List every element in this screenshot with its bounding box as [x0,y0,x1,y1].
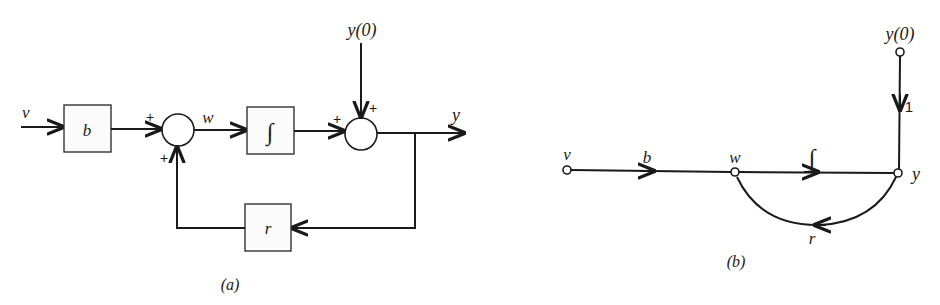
node-y0 [896,48,904,56]
gain-b-label: b [83,121,92,140]
summer2-junction [345,118,377,150]
summer2-plus-top: + [369,100,377,116]
summer1-junction [162,114,194,146]
summer1-plus-bottom: + [160,150,168,166]
output-y-label: y [450,105,460,125]
input-v-label: v [22,103,30,122]
node-v-label: v [563,145,571,164]
w-signal-label: w [202,108,214,127]
figure-a-caption: (a) [221,276,240,294]
diagram-canvas: v b + + w ∫ + + y(0) y r (a) v b w [0,0,940,305]
branch-r-label: r [809,229,816,248]
figure-a-block-diagram: v b + + w ∫ + + y(0) y r (a) [21,20,464,294]
branch-1-label: 1 [905,98,913,115]
branch-y-to-w-arc [737,177,896,225]
y0-label: y(0) [346,20,377,41]
summer2-plus-left: + [333,111,341,127]
node-y-label: y [910,164,920,184]
node-w-label: w [729,148,741,167]
node-v [563,166,571,174]
figure-b-caption: (b) [727,253,746,271]
feedback-r-label: r [265,219,272,238]
feedback-path-to-summer1 [177,147,245,228]
summer1-plus-top: + [146,109,154,125]
figure-b-signal-flow-graph: v b w ∫ r 1 y(0) y (b) [563,24,920,271]
node-w [731,168,739,176]
branch-y0-to-y [899,56,900,169]
branch-b-label: b [643,148,652,167]
node-y [894,169,902,177]
node-y0-label: y(0) [884,24,915,45]
integrator-label: ∫ [265,119,275,147]
branch-integral-label: ∫ [807,145,817,173]
